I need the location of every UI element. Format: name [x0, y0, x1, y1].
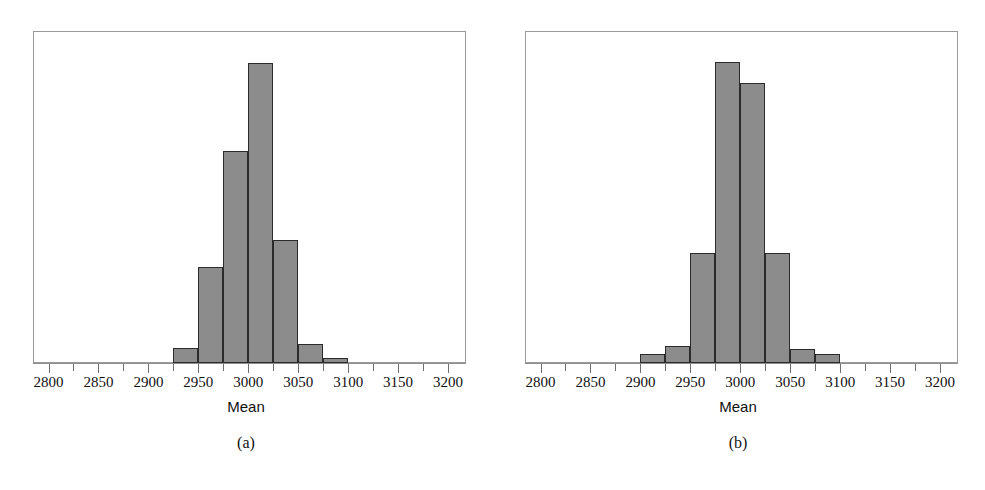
- x-axis-minor-tick: [865, 364, 866, 371]
- histogram-bar: [665, 346, 690, 363]
- plot-area-a: [33, 31, 466, 363]
- x-axis-minor-tick: [565, 364, 566, 371]
- histogram-bar: [640, 354, 665, 363]
- x-axis-minor-tick: [715, 364, 716, 371]
- x-axis-major-tick: [148, 364, 149, 373]
- x-axis-major-tick: [298, 364, 299, 373]
- x-axis-major-tick: [541, 364, 542, 373]
- x-axis-minor-tick: [323, 364, 324, 371]
- x-axis-major-tick: [348, 364, 349, 373]
- histogram-bar: [173, 348, 198, 363]
- x-axis-major-tick: [590, 364, 591, 373]
- x-axis-minor-tick: [423, 364, 424, 371]
- histogram-bar: [690, 253, 715, 363]
- panel-caption-a: (a): [0, 434, 492, 452]
- x-axis-major-tick: [398, 364, 399, 373]
- histogram-bar: [790, 349, 815, 363]
- x-axis-tick-label: 3200: [905, 374, 975, 391]
- x-axis-major-tick: [690, 364, 691, 373]
- x-axis-minor-tick: [373, 364, 374, 371]
- panel-a: 280028502900295030003050310031503200 Mea…: [0, 0, 492, 490]
- x-axis-major-tick: [198, 364, 199, 373]
- x-axis-minor-tick: [273, 364, 274, 371]
- x-axis-title-a: Mean: [0, 398, 492, 415]
- x-axis-major-tick: [640, 364, 641, 373]
- x-axis-minor-tick: [223, 364, 224, 371]
- x-axis-minor-tick: [615, 364, 616, 371]
- x-axis-minor-tick: [73, 364, 74, 371]
- panel-b: 280028502900295030003050310031503200 Mea…: [492, 0, 984, 490]
- x-axis-title-b: Mean: [492, 398, 984, 415]
- histogram-bar: [740, 83, 765, 363]
- x-axis-minor-tick: [815, 364, 816, 371]
- histogram-bar: [298, 344, 323, 363]
- x-axis-major-tick: [448, 364, 449, 373]
- x-axis-major-tick: [248, 364, 249, 373]
- histogram-bar: [198, 267, 223, 363]
- x-axis-major-tick: [890, 364, 891, 373]
- x-axis-minor-tick: [123, 364, 124, 371]
- x-axis-major-tick: [790, 364, 791, 373]
- x-axis-minor-tick: [173, 364, 174, 371]
- figure-container: 280028502900295030003050310031503200 Mea…: [0, 0, 985, 490]
- histogram-bar: [223, 151, 248, 363]
- histogram-bar: [273, 240, 298, 363]
- x-axis-major-tick: [49, 364, 50, 373]
- x-axis-major-tick: [940, 364, 941, 373]
- x-axis-minor-tick: [665, 364, 666, 371]
- panel-caption-b: (b): [492, 434, 984, 452]
- x-axis-minor-tick: [765, 364, 766, 371]
- x-axis-tick-label: 3200: [413, 374, 483, 391]
- histogram-bar: [815, 354, 840, 363]
- plot-area-b: [525, 31, 958, 363]
- x-axis-major-tick: [98, 364, 99, 373]
- x-axis-minor-tick: [915, 364, 916, 371]
- histogram-bar: [248, 63, 273, 363]
- histogram-bar: [765, 253, 790, 363]
- x-axis-major-tick: [740, 364, 741, 373]
- x-axis-major-tick: [840, 364, 841, 373]
- histogram-bar: [715, 62, 740, 363]
